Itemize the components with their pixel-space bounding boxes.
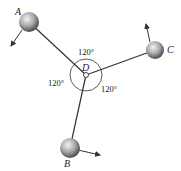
label-A: A — [14, 6, 22, 17]
angle-label-BC: 120° — [101, 84, 117, 94]
label-C: C — [167, 44, 174, 55]
ball-C — [146, 41, 164, 59]
velocity-arrow-C — [146, 24, 150, 42]
angle-label-AC: 120° — [78, 47, 94, 57]
label-B: B — [64, 158, 70, 169]
label-D: D — [81, 62, 90, 73]
ball-A — [19, 12, 39, 32]
pivot-D — [84, 73, 89, 78]
velocity-arrow-A — [11, 30, 22, 46]
diagram-svg: A C B D 120° 120° 120° — [0, 0, 181, 171]
diagram-stage: A C B D 120° 120° 120° — [0, 0, 181, 171]
ball-B — [60, 138, 80, 158]
rod-B — [70, 75, 86, 148]
velocity-arrow-B — [78, 150, 100, 155]
angle-label-AB: 120° — [48, 78, 64, 88]
